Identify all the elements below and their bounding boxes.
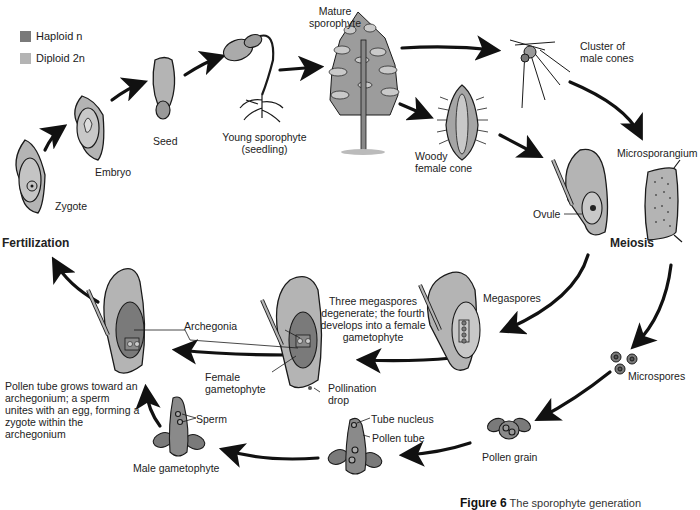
figure-caption-text: The sporophyte generation	[510, 497, 641, 509]
figure-caption: Figure 6 The sporophyte generation	[460, 496, 641, 510]
label-megaspores: Megaspores	[483, 292, 541, 304]
legend-item-diploid: Diploid 2n	[20, 52, 85, 64]
label-microsporangium: Microsporangium	[617, 147, 698, 159]
label-pollen-grain: Pollen grain	[482, 451, 537, 463]
microsporangium-illustration	[645, 160, 682, 242]
label-pollen-tube: Pollen tube	[372, 432, 425, 444]
label-sperm: Sperm	[196, 413, 227, 425]
woody-female-cone	[437, 85, 488, 160]
label-ovule: Ovule	[533, 208, 560, 220]
embryo-illustration	[75, 96, 104, 160]
label-cluster-male-cones: Cluster of male cones	[580, 40, 650, 64]
mature-sporophyte-tree	[329, 12, 399, 155]
legend-item-haploid: Haploid n	[20, 30, 85, 42]
label-female-gametophyte: Female gametophyte	[205, 371, 270, 395]
label-pollen-tube-note: Pollen tube grows toward an archegonium;…	[5, 380, 140, 440]
label-archegonia: Archegonia	[184, 320, 237, 332]
male-cone-cluster	[510, 40, 570, 108]
seed-illustration	[153, 58, 174, 120]
diploid-swatch	[20, 53, 31, 64]
label-fertilization: Fertilization	[2, 237, 69, 249]
label-male-gametophyte: Male gametophyte	[133, 462, 219, 474]
haploid-swatch	[20, 31, 31, 42]
label-embryo: Embryo	[95, 166, 131, 178]
pollen-tube-illustration	[326, 418, 384, 474]
legend-label: Haploid n	[36, 30, 82, 42]
pollen-grain-illustration	[485, 416, 532, 439]
label-tube-nucleus: Tube nucleus	[371, 413, 434, 425]
label-young-sporophyte: Young sporophyte (seedling)	[222, 131, 307, 155]
female-gametophyte-ovule	[262, 277, 322, 392]
legend-label: Diploid 2n	[36, 52, 85, 64]
label-pollination-drop: Pollination drop	[328, 382, 388, 406]
legend: Haploid n Diploid 2n	[20, 30, 85, 74]
zygote-illustration	[16, 140, 45, 213]
ovule-illustration	[553, 149, 608, 234]
seedling-illustration	[220, 32, 283, 122]
label-zygote: Zygote	[55, 200, 87, 212]
megaspore-ovule	[420, 272, 480, 370]
label-meiosis: Meiosis	[610, 237, 654, 249]
label-woody-female-cone: Woody female cone	[415, 150, 475, 174]
label-microspores: Microspores	[628, 370, 685, 382]
label-mature-sporophyte: Mature sporophyte	[305, 5, 365, 29]
label-seed: Seed	[153, 135, 178, 147]
figure-number: Figure 6	[460, 496, 507, 510]
label-megaspore-note: Three megaspores degenerate; the fourth …	[318, 295, 428, 343]
